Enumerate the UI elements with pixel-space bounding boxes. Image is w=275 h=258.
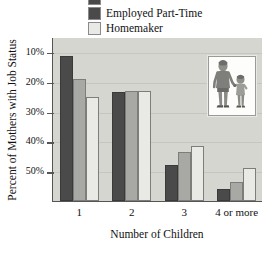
y-axis-title-host: Percent of Mothers with Job Status [8, 38, 22, 202]
y-tick-mark [47, 53, 54, 55]
bar [217, 189, 230, 201]
bar [243, 168, 256, 201]
legend-label-employed-part-time: Employed Part-Time [106, 7, 202, 20]
x-tick-label: 3 [182, 206, 188, 218]
bar [73, 79, 86, 201]
bar-group-3 [165, 37, 204, 201]
bar [230, 182, 243, 201]
mother-and-child-icon [209, 57, 253, 113]
legend-swatch-clipped [88, 0, 101, 5]
legend-swatch-employed-part-time [88, 7, 101, 20]
y-tick-mark [47, 142, 54, 144]
chart-legend: Employed Part-Time Homemaker [88, 0, 238, 36]
bar [138, 91, 151, 201]
y-tick-label: 10% [26, 46, 44, 57]
x-tick-label: 2 [129, 206, 135, 218]
legend-swatch-homemaker [88, 22, 101, 35]
bar [191, 146, 204, 201]
bar [125, 91, 138, 201]
plot-area: 50%40%30%20%10% 1234 or mo [52, 38, 262, 202]
x-axis-title: Number of Children [52, 228, 262, 240]
y-tick-label: 40% [26, 135, 44, 146]
legend-item-employed-part-time: Employed Part-Time [88, 6, 238, 21]
y-tick-mark [47, 113, 54, 115]
mother-and-child-illustration [208, 56, 256, 116]
y-axis-title: Percent of Mothers with Job Status [6, 38, 20, 202]
bar [86, 97, 99, 201]
y-tick-label: 30% [26, 106, 44, 117]
x-tick-label: 4 or more [215, 206, 258, 218]
bar [60, 56, 73, 201]
bar [165, 165, 178, 201]
legend-item-homemaker: Homemaker [88, 21, 238, 36]
legend-label-homemaker: Homemaker [106, 22, 163, 35]
y-tick-mark [47, 172, 54, 174]
bar-group-2 [112, 37, 151, 201]
y-tick-label: 20% [26, 76, 44, 87]
x-tick-label: 1 [77, 206, 83, 218]
bar [178, 152, 191, 201]
y-tick-mark [47, 83, 54, 85]
bar-group-1 [60, 37, 99, 201]
bar [112, 92, 125, 201]
y-tick-label: 50% [26, 165, 44, 176]
